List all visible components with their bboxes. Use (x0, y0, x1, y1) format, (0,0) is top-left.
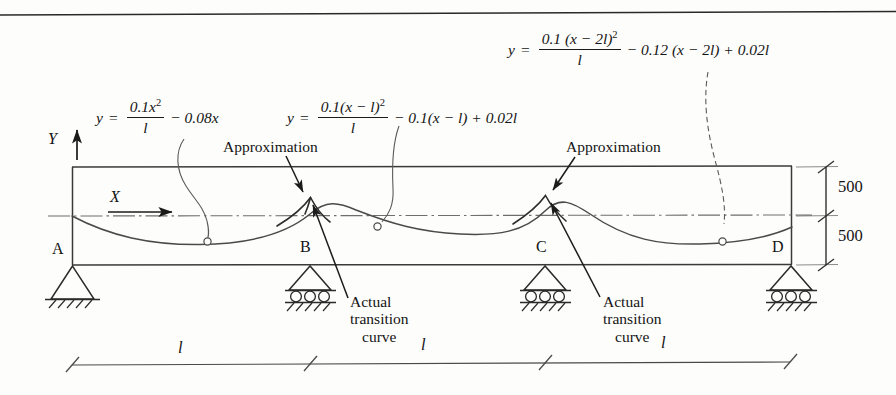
actual-curve-label-right-line1: Actual (603, 293, 662, 310)
support-roller-d (766, 266, 817, 311)
actual-curve-label-right-line3: curve (603, 328, 662, 345)
equation-span-cd: y = 0.1 (x − 2l)2 l − 0.12 (x − 2l) + 0.… (508, 30, 769, 69)
equation-span-cd-numerator-exponent: 2 (612, 29, 617, 40)
equation-span-cd-remainder: − 0.12 (x − 2l) + 0.02l (627, 41, 769, 59)
actual-curve-label-left-line3: curve (350, 328, 409, 345)
leader-line-span-ab (178, 139, 207, 221)
support-roller-b (285, 266, 336, 311)
actual-curve-right-arrow (551, 203, 600, 297)
dimension-label-vertical-upper: 500 (838, 177, 863, 197)
support-roller-c (520, 266, 571, 311)
equation-span-cd-fraction: 0.1 (x − 2l)2 l (539, 30, 621, 69)
equation-span-bc-fraction: 0.1(x − l)2 l (318, 98, 388, 137)
actual-transition-curve (72, 202, 792, 244)
equation-span-ab-numerator: 0.1x2 (127, 98, 165, 118)
equation-span-cd-denominator: l (574, 50, 584, 69)
actual-curve-label-left-line1: Actual (350, 293, 409, 310)
equation-span-ab-eq: = (109, 109, 118, 127)
equation-span-ab-remainder: − 0.08x (170, 109, 218, 127)
vertical-dimension-line (796, 161, 838, 271)
dimension-label-span-2: l (421, 335, 426, 355)
page-top-rule (0, 12, 896, 16)
equation-span-cd-lhs: y (508, 41, 515, 59)
equation-span-ab-denominator: l (140, 118, 150, 137)
node-label-a: A (52, 240, 64, 258)
approximation-peak-c (513, 196, 566, 225)
approximation-right-arrow (553, 157, 575, 190)
equation-span-bc-numerator: 0.1(x − l)2 (318, 98, 388, 118)
approximation-left-arrow (286, 156, 303, 192)
curve-marker-span-cd (719, 238, 726, 245)
approximation-label-left: Approximation (223, 138, 318, 156)
leader-line-span-cd (706, 72, 725, 224)
actual-curve-label-right: Actual transition curve (603, 293, 662, 345)
equation-span-ab: y = 0.1x2 l − 0.08x (96, 98, 219, 137)
equation-span-bc-denominator: l (348, 118, 358, 137)
leader-line-span-bc (382, 126, 399, 222)
dimension-label-vertical-lower: 500 (838, 226, 863, 246)
equation-span-bc-remainder: − 0.1(x − l) + 0.02l (394, 109, 517, 127)
approximation-label-right: Approximation (566, 138, 661, 156)
equation-span-bc-lhs: y (287, 109, 294, 127)
equation-span-bc: y = 0.1(x − l)2 l − 0.1(x − l) + 0.02l (287, 98, 517, 137)
curve-marker-span-ab (204, 238, 211, 245)
equation-span-cd-numerator: 0.1 (x − 2l)2 (539, 30, 621, 50)
node-label-c: C (536, 238, 547, 256)
beam-diagram-figure: y = 0.1x2 l − 0.08x y = 0.1(x − l)2 l − … (0, 0, 896, 395)
actual-curve-left-arrow (313, 205, 348, 298)
leader-line-span-ab-tail (207, 221, 208, 238)
dimension-label-span-3: l (661, 333, 666, 353)
beam-centerline (48, 215, 812, 216)
approximation-peak-b (277, 198, 330, 227)
y-axis-label: Y (48, 130, 57, 148)
equation-span-cd-eq: = (521, 41, 530, 59)
curve-marker-span-bc (374, 223, 381, 230)
actual-curve-label-right-line2: transition (603, 310, 662, 327)
horizontal-dimension-line (66, 354, 797, 372)
x-axis-label: X (110, 188, 120, 206)
dimension-label-span-1: l (178, 338, 183, 358)
equation-span-ab-fraction: 0.1x2 l (127, 98, 165, 137)
node-label-d: D (772, 238, 784, 256)
support-pin-a (45, 266, 100, 308)
node-label-b: B (300, 238, 311, 256)
equation-span-ab-numerator-exponent: 2 (156, 97, 161, 108)
actual-curve-label-left-line2: transition (350, 310, 409, 327)
equation-span-bc-numerator-exponent: 2 (380, 97, 385, 108)
equation-span-ab-lhs: y (96, 109, 103, 127)
equation-span-bc-eq: = (300, 109, 309, 127)
actual-curve-label-left: Actual transition curve (350, 293, 409, 345)
